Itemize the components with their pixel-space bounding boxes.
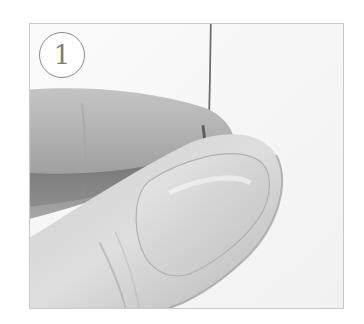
step-number-badge: 1 (39, 32, 85, 78)
step-number: 1 (54, 42, 71, 68)
instruction-step-image: 1 (0, 0, 364, 324)
